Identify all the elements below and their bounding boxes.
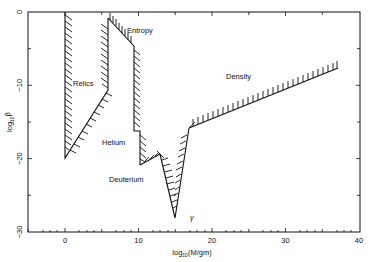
label-helium: Helium xyxy=(102,138,125,147)
helium-curve xyxy=(134,46,140,165)
label-entropy: Entropy xyxy=(127,26,153,35)
label-gamma: γ xyxy=(190,213,195,222)
constraint-chart: 0 10 20 30 40 0 −10 −20 −30 log10(M/gm) … xyxy=(0,0,371,262)
relics-right-hatch xyxy=(101,24,108,88)
y-tick-0: 0 xyxy=(15,10,24,14)
x-tick-40: 40 xyxy=(355,236,363,245)
y-axis-ticks xyxy=(28,49,360,196)
x-axis-title: log10(M/gm) xyxy=(172,248,212,258)
label-density: Density xyxy=(226,72,251,81)
x-tick-0: 0 xyxy=(63,236,67,245)
constraint-curves xyxy=(65,12,338,218)
y-tick-minus30: −30 xyxy=(15,226,24,239)
label-relics: Relics xyxy=(73,79,94,88)
y-tick-minus20: −20 xyxy=(15,152,24,165)
x-tick-labels: 0 10 20 30 40 xyxy=(63,236,363,245)
density-curve xyxy=(189,68,338,128)
gamma-left-hatch xyxy=(162,158,177,208)
x-tick-10: 10 xyxy=(134,236,142,245)
y-tick-labels: 0 −10 −20 −30 xyxy=(15,10,24,238)
x-axis-ticks xyxy=(28,12,351,232)
x-tick-30: 30 xyxy=(281,236,289,245)
plot-frame xyxy=(28,12,360,232)
x-tick-20: 20 xyxy=(208,236,216,245)
hatching xyxy=(65,13,337,208)
label-deuterium: Deuterium xyxy=(109,175,144,184)
y-tick-minus10: −10 xyxy=(15,79,24,92)
relics-left-hatch xyxy=(65,15,72,150)
y-axis-title: log10β xyxy=(3,111,15,132)
density-hatch xyxy=(193,61,337,126)
